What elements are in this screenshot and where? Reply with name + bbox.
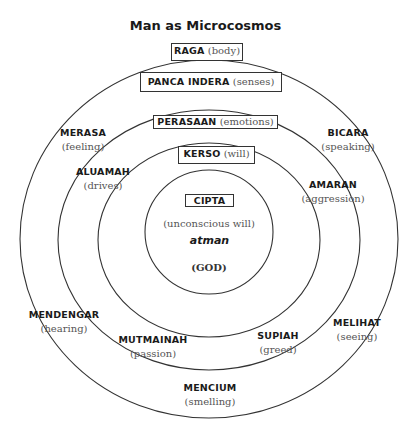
emotion-supiah: SUPIAH (greed) <box>248 329 308 357</box>
raga-box: RAGA (body) <box>171 43 243 61</box>
emotion-gloss: (greed) <box>248 343 308 357</box>
perasaan-term: PERASAAN <box>157 116 216 127</box>
sense-term: MENCIUM <box>170 381 250 395</box>
ring-cipta <box>145 170 273 294</box>
panca-indera-box: PANCA INDERA (senses) <box>140 72 282 92</box>
sense-gloss: (smelling) <box>170 395 250 409</box>
emotion-aluamah: ALUAMAH (drives) <box>68 165 138 193</box>
god-label: (GOD) <box>0 262 411 273</box>
sense-gloss: (speaking) <box>313 140 383 154</box>
raga-gloss: (body) <box>208 45 240 56</box>
emotion-amaran: AMARAN (aggression) <box>298 178 368 206</box>
sense-mendengar: MENDENGAR (hearing) <box>24 308 104 336</box>
emotion-mutmainah: MUTMAINAH (passion) <box>113 333 193 361</box>
sense-melihat: MELIHAT (seeing) <box>327 316 387 344</box>
kerso-box: KERSO (will) <box>178 146 255 164</box>
perasaan-gloss: (emotions) <box>220 116 274 127</box>
sense-term: BICARA <box>313 126 383 140</box>
emotion-gloss: (passion) <box>113 347 193 361</box>
panca-indera-term: PANCA INDERA <box>148 76 230 87</box>
sense-merasa: MERASA (feeling) <box>53 126 113 154</box>
sense-term: MELIHAT <box>327 316 387 330</box>
perasaan-box: PERASAAN (emotions) <box>153 115 278 129</box>
sense-gloss: (hearing) <box>24 322 104 336</box>
kerso-term: KERSO <box>183 148 220 159</box>
emotion-term: ALUAMAH <box>68 165 138 179</box>
cipta-term: CIPTA <box>194 195 226 206</box>
sense-gloss: (feeling) <box>53 140 113 154</box>
cipta-box: CIPTA <box>185 194 234 207</box>
sense-gloss: (seeing) <box>327 330 387 344</box>
sense-term: MERASA <box>53 126 113 140</box>
emotion-term: MUTMAINAH <box>113 333 193 347</box>
sense-bicara: BICARA (speaking) <box>313 126 383 154</box>
unconscious-will-label: (unconscious will) <box>0 218 411 229</box>
panca-indera-gloss: (senses) <box>233 76 274 87</box>
sense-mencium: MENCIUM (smelling) <box>170 381 250 409</box>
emotion-term: AMARAN <box>298 178 368 192</box>
kerso-gloss: (will) <box>224 148 250 159</box>
sense-term: MENDENGAR <box>24 308 104 322</box>
raga-term: RAGA <box>174 45 205 56</box>
emotion-term: SUPIAH <box>248 329 308 343</box>
atman-label: atman <box>4 234 411 247</box>
emotion-gloss: (drives) <box>68 179 138 193</box>
emotion-gloss: (aggression) <box>298 192 368 206</box>
